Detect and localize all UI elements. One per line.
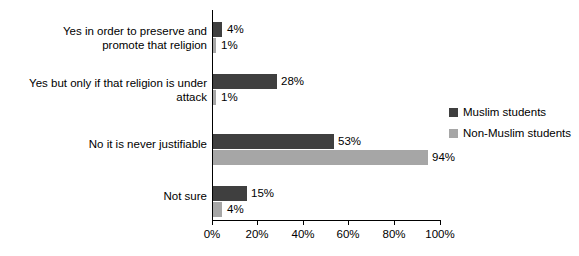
bar-value-nonmuslim-0: 1% [221, 38, 238, 53]
tick-label-0: 0% [190, 228, 234, 240]
bar-nonmuslim-3 [213, 202, 222, 217]
bar-muslim-0 [213, 22, 222, 37]
tick-mark-2 [303, 221, 304, 225]
tick-label-1: 20% [235, 228, 279, 240]
legend-swatch-icon-non-muslim [449, 129, 458, 138]
tick-mark-1 [257, 221, 258, 225]
bar-muslim-3 [213, 186, 247, 201]
category-label-2: No it is never justifiable [7, 137, 207, 151]
legend-label-non-muslim: Non-Muslim students [463, 125, 571, 142]
category-label-1-line2: attack [176, 91, 207, 103]
category-label-1-line1: Yes but only if that religion is under [29, 77, 207, 89]
tick-mark-0 [212, 221, 213, 225]
category-label-2-line1: No it is never justifiable [89, 138, 207, 150]
bar-muslim-1 [213, 74, 277, 89]
tick-label-5: 100% [418, 228, 462, 240]
category-axis-labels: Yes in order to preserve and promote tha… [0, 0, 207, 256]
bar-value-nonmuslim-1: 1% [221, 90, 238, 105]
bar-value-muslim-2: 53% [338, 134, 361, 149]
tick-mark-3 [348, 221, 349, 225]
category-label-0-line1: Yes in order to preserve and [63, 25, 207, 37]
category-label-3: Not sure [7, 189, 207, 203]
legend-item-non-muslim-students: Non-Muslim students [449, 125, 571, 142]
tick-label-4: 80% [372, 228, 416, 240]
legend: Muslim students Non-Muslim students [449, 104, 571, 146]
bar-nonmuslim-1 [213, 90, 216, 105]
legend-item-muslim-students: Muslim students [449, 104, 571, 121]
bar-value-nonmuslim-3: 4% [227, 202, 244, 217]
bar-value-muslim-0: 4% [227, 22, 244, 37]
tick-mark-5 [440, 221, 441, 225]
tick-mark-4 [394, 221, 395, 225]
bar-nonmuslim-2 [213, 150, 428, 165]
bar-value-nonmuslim-2: 94% [432, 150, 455, 165]
category-axis-line [212, 220, 441, 221]
category-label-0-line2: promote that religion [102, 39, 207, 51]
legend-swatch-icon-muslim [449, 108, 458, 117]
bar-chart: Yes in order to preserve and promote tha… [0, 0, 579, 256]
legend-label-muslim: Muslim students [463, 104, 546, 121]
tick-label-2: 40% [281, 228, 325, 240]
tick-label-3: 60% [326, 228, 370, 240]
bar-value-muslim-1: 28% [281, 74, 304, 89]
category-label-1: Yes but only if that religion is under a… [7, 76, 207, 104]
category-label-3-line1: Not sure [164, 190, 207, 202]
category-label-0: Yes in order to preserve and promote tha… [7, 24, 207, 52]
bar-value-muslim-3: 15% [251, 186, 274, 201]
bar-muslim-2 [213, 134, 334, 149]
bar-nonmuslim-0 [213, 38, 216, 53]
